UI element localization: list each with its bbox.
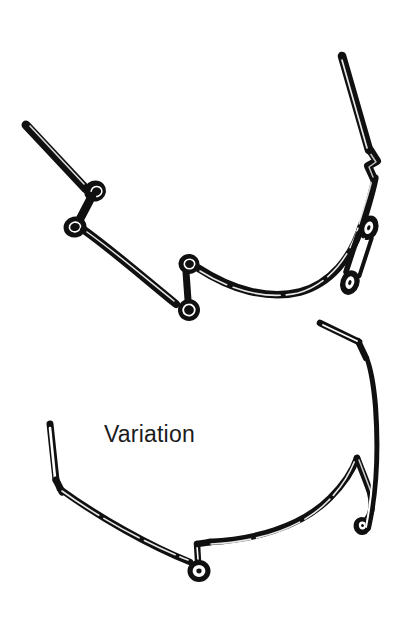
upper-center-loop-stem (186, 272, 188, 300)
wire-form-illustration (0, 0, 405, 635)
upper-right-kink-joint (368, 150, 377, 179)
figure-background (0, 0, 405, 635)
figure-page: Variation (0, 0, 405, 635)
variation-caption: Variation (104, 421, 195, 447)
